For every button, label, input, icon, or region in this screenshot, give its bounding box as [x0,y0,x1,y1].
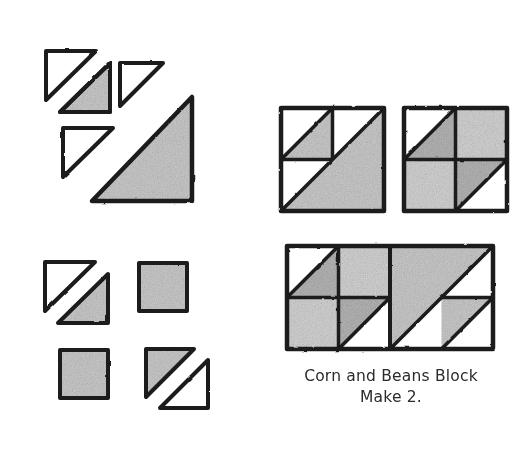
cutting-group-units [45,262,208,408]
white-triangle-small-3 [63,128,113,177]
full-block [287,246,493,349]
half-block-b [404,108,507,211]
cutting-group-large-triangles [46,51,192,201]
square-unit-gray-2 [60,350,108,398]
half-block-a [281,108,384,211]
half-block-b-quadrant-top-right [456,108,508,160]
half-block-b-quadrant-bottom-left [404,160,456,212]
caption-line-2: Make 2. [262,387,520,408]
diagram-canvas: Corn and Beans Block Make 2. [0,0,523,449]
caption-line-1: Corn and Beans Block [304,367,478,385]
white-triangle-small-2 [120,63,163,106]
full-block-quadrant-top-right [339,246,391,298]
block-caption: Corn and Beans Block Make 2. [262,366,520,408]
full-block-quadrant-bottom-left [287,298,339,350]
square-unit-gray-1 [139,263,187,311]
